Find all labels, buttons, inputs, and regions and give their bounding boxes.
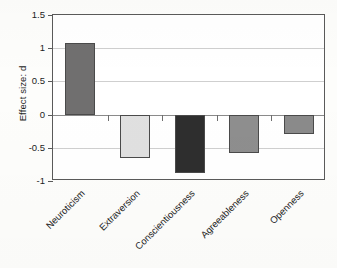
y-tick-label: 0 <box>3 108 45 119</box>
bar <box>65 43 95 115</box>
x-tick-mark <box>217 115 218 121</box>
y-tick-label: 1.5 <box>3 9 45 20</box>
y-tick-mark <box>48 148 53 149</box>
y-axis-title: Effect size: d <box>17 39 28 149</box>
bar <box>284 115 314 134</box>
y-tick-label: -1 <box>3 175 45 186</box>
plot-area <box>52 14 325 180</box>
x-tick-mark <box>162 115 163 121</box>
bar-chart-figure: Effect size: d 1.510.50-0.5-1 Neuroticis… <box>0 0 337 268</box>
bar <box>175 115 205 173</box>
bar <box>229 115 259 154</box>
x-tick-mark <box>271 115 272 121</box>
y-tick-label: 0.5 <box>3 75 45 86</box>
bar <box>120 115 150 158</box>
y-tick-mark <box>48 115 53 116</box>
y-tick-mark <box>48 181 53 182</box>
y-tick-mark <box>48 81 53 82</box>
y-tick-label: -0.5 <box>3 141 45 152</box>
x-tick-mark <box>108 115 109 121</box>
y-tick-mark <box>48 48 53 49</box>
y-tick-label: 1 <box>3 42 45 53</box>
y-tick-mark <box>48 15 53 16</box>
